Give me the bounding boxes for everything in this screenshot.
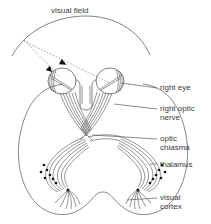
thalamus-left [40,164,58,185]
label-visual-cortex-line1: visual [160,193,181,202]
leader-optic-chiasma [92,135,157,139]
label-optic-chiasma-line2: chiasma [160,143,190,152]
visual-pathway-diagram: visual field [0,0,211,224]
ray-arrowhead-right [59,59,68,68]
diagram-title: visual field [51,6,88,15]
diagram-canvas: visual field [0,0,211,224]
leader-right-optic-nerve [114,104,157,109]
label-thalamus: thalamus [160,160,192,169]
left-eye [48,68,76,94]
optic-nerve-fibers [60,92,112,136]
label-visual-cortex-line2: cortex [160,202,182,211]
visual-field-arc [12,16,150,56]
label-right-optic-nerve-line2: nerve [160,113,181,122]
sight-ray-left [24,40,60,77]
label-right-optic-nerve-line1: right optic [160,104,195,113]
visual-cortex-left [55,188,80,209]
optic-tract-left [46,137,89,192]
label-right-eye: right eye [160,83,191,92]
label-optic-chiasma-line1: optic [160,134,177,143]
right-eye [96,68,124,94]
